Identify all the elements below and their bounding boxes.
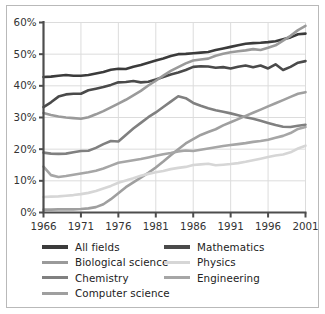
chart-figure: 0%10%20%30%40%50%60%19661971197619811986… [0, 0, 325, 314]
y-axis-tick-label: 50% [14, 48, 37, 60]
legend-swatch-icon [164, 245, 190, 249]
legend-swatch-icon [42, 245, 68, 249]
y-axis-tick-label: 0% [20, 206, 37, 218]
legend-item[interactable]: Computer science [42, 286, 170, 302]
y-axis-tick-label: 60% [14, 16, 37, 28]
legend-item-label: Computer science [75, 288, 170, 298]
legend-item[interactable]: Physics [164, 255, 264, 271]
x-axis-tick-label: 1966 [30, 220, 56, 232]
x-axis-tick-label: 2001 [292, 220, 318, 232]
legend-item-label: Mathematics [197, 242, 264, 252]
legend-column-left: All fieldsBiological scienceChemistryCom… [42, 239, 170, 301]
legend-item-label: Chemistry [75, 273, 129, 283]
x-axis-tick-label: 1991 [218, 220, 244, 232]
x-axis-tick-label: 1996 [255, 220, 281, 232]
legend-item[interactable]: All fields [42, 239, 170, 255]
legend-item-label: Engineering [197, 273, 260, 283]
legend-item[interactable]: Chemistry [42, 270, 170, 286]
legend-item-label: Biological science [75, 257, 168, 267]
y-axis-tick-label: 40% [14, 79, 37, 91]
x-axis-tick-label: 1971 [68, 220, 94, 232]
x-axis-tick-label: 1981 [143, 220, 169, 232]
legend-item[interactable]: Biological science [42, 255, 170, 271]
legend-column-right: MathematicsPhysicsEngineering [164, 239, 264, 286]
legend-swatch-icon [42, 292, 68, 295]
legend-swatch-icon [42, 261, 68, 264]
legend-item[interactable]: Engineering [164, 270, 264, 286]
legend-swatch-icon [164, 276, 190, 279]
x-axis-tick-label: 1976 [105, 220, 131, 232]
legend-item-label: All fields [75, 242, 120, 252]
chart-legend: All fieldsBiological scienceChemistryCom… [36, 239, 306, 303]
legend-item[interactable]: Mathematics [164, 239, 264, 255]
y-axis-tick-label: 20% [14, 143, 37, 155]
y-axis-tick-label: 30% [14, 111, 37, 123]
y-axis-tick-label: 10% [14, 174, 37, 186]
legend-item-label: Physics [197, 257, 236, 267]
x-axis-tick-label: 1986 [180, 220, 206, 232]
series-line-chemistry [44, 96, 306, 154]
legend-swatch-icon [42, 276, 68, 279]
legend-swatch-icon [164, 261, 190, 264]
